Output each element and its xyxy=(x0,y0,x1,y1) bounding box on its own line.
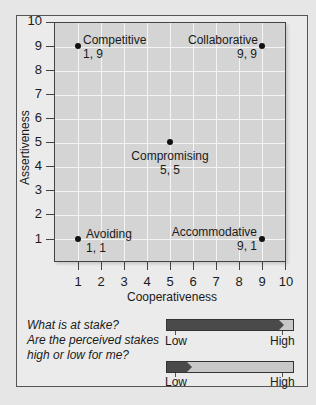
grid-line xyxy=(262,23,263,261)
x-tick-mark xyxy=(147,262,148,270)
x-tick-label: 5 xyxy=(160,274,180,289)
x-tick-label: 2 xyxy=(91,274,111,289)
x-tick-mark xyxy=(78,262,79,270)
grid-line xyxy=(55,71,285,72)
x-tick-label: 8 xyxy=(229,274,249,289)
x-tick-mark xyxy=(101,262,102,270)
point-label-compromising: Compromising 5, 5 xyxy=(130,149,210,177)
point-label-accommodative: Accommodative 9, 1 xyxy=(170,225,257,253)
y-tick-label: 10 xyxy=(22,13,42,28)
x-tick-label: 4 xyxy=(137,274,157,289)
x-tick-mark xyxy=(285,262,286,270)
bar-high-label: High xyxy=(270,375,295,389)
question-line: What is at stake? xyxy=(27,318,159,333)
x-tick-mark xyxy=(262,262,263,270)
point-label-collaborative: Collaborative 9, 9 xyxy=(188,33,257,61)
grid-line xyxy=(55,119,285,120)
y-tick-mark xyxy=(46,142,54,143)
x-tick-mark xyxy=(216,262,217,270)
stakes-question: What is at stake? Are the perceived stak… xyxy=(27,318,159,363)
y-tick-mark xyxy=(46,22,54,23)
stakes-bar-fill xyxy=(167,320,279,330)
x-tick-label: 7 xyxy=(206,274,226,289)
point-label-competitive: Competitive 1, 9 xyxy=(83,33,146,61)
x-tick-mark xyxy=(124,262,125,270)
grid-line xyxy=(78,23,79,261)
x-tick-label: 3 xyxy=(114,274,134,289)
data-point-collaborative xyxy=(259,43,265,49)
bar-high-label: High xyxy=(270,334,295,348)
grid-line xyxy=(147,23,148,261)
y-tick-label: 9 xyxy=(22,38,42,53)
y-tick-mark xyxy=(46,118,54,119)
y-tick-label: 1 xyxy=(22,231,42,246)
stakes-bar-high xyxy=(166,319,294,331)
x-tick-mark xyxy=(170,262,171,270)
x-tick-label: 1 xyxy=(68,274,88,289)
y-tick-label: 8 xyxy=(22,62,42,77)
x-tick-mark xyxy=(239,262,240,270)
data-point-accommodative xyxy=(259,236,265,242)
data-point-compromising xyxy=(167,139,173,145)
y-tick-label: 7 xyxy=(22,86,42,101)
x-axis-title: Cooperativeness xyxy=(127,290,217,304)
bar-low-label: Low xyxy=(165,375,187,389)
data-point-avoiding xyxy=(75,236,81,242)
y-tick-mark xyxy=(46,239,54,240)
x-tick-label: 9 xyxy=(252,274,272,289)
x-tick-label: 6 xyxy=(183,274,203,289)
stakes-bar-low xyxy=(166,361,294,373)
y-axis-title: Assertiveness xyxy=(18,110,32,185)
data-point-competitive xyxy=(75,43,81,49)
y-tick-mark xyxy=(46,94,54,95)
y-tick-label: 2 xyxy=(22,206,42,221)
grid-line xyxy=(55,215,285,216)
question-line: Are the perceived stakes xyxy=(27,333,159,348)
grid-line xyxy=(55,191,285,192)
y-tick-mark xyxy=(46,70,54,71)
grid-line xyxy=(55,95,285,96)
x-tick-label: 10 xyxy=(276,274,296,289)
point-label-avoiding: Avoiding 1, 1 xyxy=(86,227,132,255)
bar-low-label: Low xyxy=(165,334,187,348)
y-tick-mark xyxy=(46,46,54,47)
stakes-bar-fill xyxy=(167,362,187,372)
question-line: high or low for me? xyxy=(27,348,159,363)
x-tick-mark xyxy=(193,262,194,270)
y-tick-mark xyxy=(46,190,54,191)
y-tick-mark xyxy=(46,214,54,215)
y-tick-mark xyxy=(46,166,54,167)
